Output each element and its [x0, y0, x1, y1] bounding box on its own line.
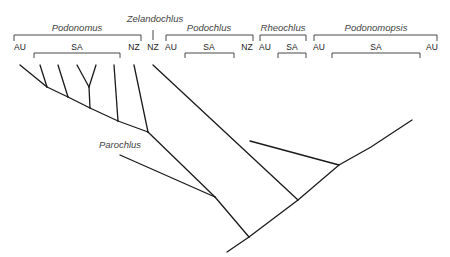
branch-podonomus-stem [148, 132, 215, 197]
label-podochlus: Podochlus [187, 22, 232, 33]
region-podonomus-nz: NZ [128, 42, 139, 52]
bracket-rheochlus-sa [278, 53, 306, 58]
region-podonomopsis-sa: SA [370, 42, 382, 52]
bracket-podonomus [14, 35, 141, 41]
region-podochlus-nz: NZ [241, 42, 252, 52]
bracket-podonomopsis-sa [332, 53, 420, 58]
branch-podonomus-nz [134, 65, 148, 132]
label-podonomopsis: Podonomopsis [345, 22, 408, 33]
cladogram: Podonomus Zelandochlus Podochlus Rheochl… [0, 0, 450, 257]
branch-backbone [249, 120, 412, 237]
region-podonomopsis-au1: AU [313, 42, 325, 52]
bracket-rheochlus [260, 35, 306, 41]
region-podochlus-au: AU [165, 42, 177, 52]
branch-pod-a [118, 121, 148, 132]
region-podochlus-sa: SA [203, 42, 215, 52]
bracket-podochlus-sa [185, 53, 234, 58]
region-podonomus-sa: SA [71, 42, 83, 52]
label-zelandochlus: Zelandochlus [126, 13, 184, 24]
branch-root [227, 237, 249, 252]
branch-pod-b-stem [89, 87, 90, 108]
region-rheochlus-sa: SA [286, 42, 298, 52]
region-podonomus-au: AU [14, 42, 26, 52]
bracket-podochlus [166, 35, 253, 41]
label-parochlus: Parochlus [99, 139, 141, 150]
label-rheochlus: Rheochlus [261, 22, 306, 33]
bracket-podonomopsis [314, 35, 437, 41]
region-zelandochlus-nz: NZ [147, 42, 158, 52]
branch-node2 [215, 197, 249, 237]
branch-podochlus-stem-x [250, 141, 339, 165]
branch-pod-c [68, 97, 90, 108]
region-rheochlus-au: AU [259, 42, 271, 52]
branch-pod-b [90, 108, 118, 121]
branch-podonomus-sa5 [114, 65, 118, 121]
branch-podonomus-sa4 [89, 65, 96, 87]
region-podonomopsis-au2: AU [426, 42, 438, 52]
branch-parochlus [120, 155, 215, 197]
tree-branches [20, 65, 412, 252]
label-podonomus: Podonomus [52, 22, 103, 33]
bracket-podonomus-sa [34, 53, 120, 58]
branch-podonomus-sa2 [58, 65, 68, 97]
branch-podonomus-sa3 [77, 65, 89, 87]
